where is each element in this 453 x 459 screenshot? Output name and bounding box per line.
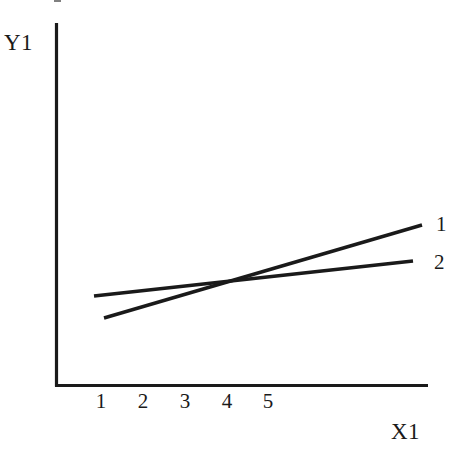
series-label-2: 2 [434,252,445,273]
x-tick-label-1: 1 [91,391,111,412]
x-tick-label-4: 4 [217,391,237,412]
x-tick-label-3: 3 [175,391,195,412]
interaction-plot-figure: Y1 X1 1 2 3 4 5 1 2 [0,0,453,459]
series-line-2 [94,261,413,296]
series-line-1 [104,225,422,318]
y-axis-label: Y1 [4,31,33,54]
x-axis-label: X1 [391,420,420,443]
x-tick-label-5: 5 [258,391,278,412]
series-label-1: 1 [436,214,447,235]
x-tick-label-2: 2 [133,391,153,412]
